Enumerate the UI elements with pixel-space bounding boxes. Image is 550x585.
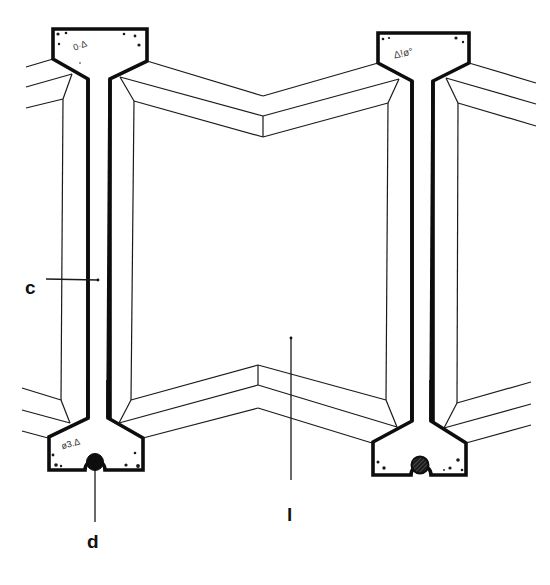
right-groove-joint	[412, 457, 429, 474]
center-folded-panel	[119, 61, 399, 443]
left-groove-joint	[87, 454, 104, 471]
leader-lines	[46, 279, 292, 522]
section-diagram: 0·Δ ø3.Δ	[0, 0, 550, 585]
left-outer-panel	[22, 59, 72, 438]
label-d: d	[87, 532, 99, 551]
right-outer-panel	[444, 63, 536, 443]
label-c: c	[25, 278, 36, 297]
label-l: l	[287, 505, 292, 524]
right-column-top-flange	[378, 33, 469, 425]
